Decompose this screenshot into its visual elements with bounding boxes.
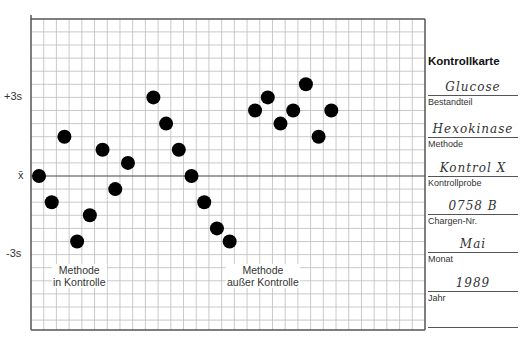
data-point: [261, 90, 275, 104]
annotation-out-control-line2: außer Kontrolle: [227, 276, 299, 288]
field-year-value: 1989: [428, 276, 518, 292]
data-point: [146, 90, 160, 104]
field-control-sample-label: Kontrollprobe: [428, 178, 518, 188]
field-month-value: Mai: [428, 237, 518, 253]
sidebar-title: Kontrollkarte: [428, 55, 500, 67]
data-point: [286, 104, 300, 118]
field-component-value: Glucose: [428, 80, 518, 96]
label-mean: x̄: [18, 169, 24, 181]
data-point: [185, 169, 199, 183]
data-point: [83, 208, 97, 222]
field-method-value: Hexokinase: [428, 122, 518, 138]
data-point: [210, 221, 224, 235]
data-point: [197, 195, 211, 209]
field-blank-line: [428, 327, 518, 328]
field-method: Hexokinase Methode: [428, 122, 518, 149]
data-point: [324, 104, 338, 118]
data-point: [57, 130, 71, 144]
field-control-sample: Kontrol X Kontrollprobe: [428, 161, 518, 188]
data-point: [96, 143, 110, 157]
field-control-sample-value: Kontrol X: [428, 161, 518, 177]
field-component: Glucose Bestandteil: [428, 80, 518, 107]
field-method-label: Methode: [428, 139, 518, 149]
label-plus-3s: +3s: [4, 90, 22, 102]
field-batch-number-label: Chargen-Nr.: [428, 216, 518, 226]
annotation-in-control: Methode in Kontrolle: [52, 264, 107, 288]
field-year-label: Jahr: [428, 293, 518, 303]
field-batch-number: 0758 B Chargen-Nr.: [428, 199, 518, 226]
data-point: [299, 77, 313, 91]
label-minus-3s: -3s: [6, 247, 21, 259]
data-point: [45, 195, 59, 209]
field-month-label: Monat: [428, 254, 518, 264]
data-point: [159, 117, 173, 131]
data-point: [248, 104, 262, 118]
data-point: [172, 143, 186, 157]
data-point: [108, 182, 122, 196]
data-point: [273, 117, 287, 131]
data-point: [32, 169, 46, 183]
field-year: 1989 Jahr: [428, 276, 518, 303]
field-month: Mai Monat: [428, 237, 518, 264]
data-point: [312, 130, 326, 144]
field-batch-number-value: 0758 B: [428, 199, 518, 215]
data-point: [121, 156, 135, 170]
data-point: [223, 235, 237, 249]
annotation-in-control-line2: in Kontrolle: [53, 276, 106, 288]
data-point: [70, 235, 84, 249]
field-component-label: Bestandteil: [428, 97, 518, 107]
annotation-in-control-line1: Methode: [53, 264, 106, 276]
annotation-out-of-control: Methode außer Kontrolle: [226, 264, 300, 288]
annotation-out-control-line1: Methode: [227, 264, 299, 276]
